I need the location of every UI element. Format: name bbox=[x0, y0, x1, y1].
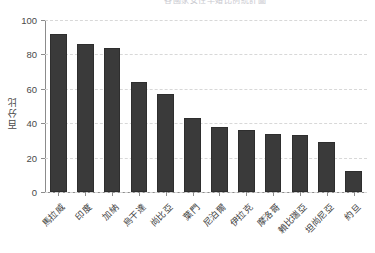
x-axis-category-label: 約旦 bbox=[341, 201, 363, 223]
x-label-slot: 加納 bbox=[99, 199, 126, 253]
x-label-slot: 馬拉威 bbox=[45, 199, 72, 253]
y-axis-title: 百分比 bbox=[6, 96, 20, 129]
x-axis-labels: 馬拉威印度加納烏干達尚比亞葉門尼泊爾伊拉克摩洛哥賴比瑞亞坦尚尼亞約旦 bbox=[45, 199, 367, 253]
x-axis-tick bbox=[139, 192, 140, 196]
x-label-slot: 伊拉克 bbox=[233, 199, 260, 253]
bar[interactable] bbox=[77, 44, 94, 192]
bar-slot bbox=[125, 20, 152, 192]
x-label-slot: 葉門 bbox=[179, 199, 206, 253]
x-axis-category-label: 印度 bbox=[73, 201, 95, 223]
x-axis-tick bbox=[327, 192, 328, 196]
bar-slot bbox=[99, 20, 126, 192]
x-axis-tick bbox=[166, 192, 167, 196]
bar-series bbox=[45, 20, 367, 192]
x-axis-tick bbox=[300, 192, 301, 196]
x-label-slot: 烏干達 bbox=[125, 199, 152, 253]
x-axis-tick bbox=[354, 192, 355, 196]
bar[interactable] bbox=[265, 134, 282, 192]
y-axis-tick-label: 40 bbox=[26, 118, 37, 129]
bar[interactable] bbox=[345, 171, 362, 192]
y-axis-tick-label: 100 bbox=[21, 15, 37, 26]
x-axis-tick bbox=[112, 192, 113, 196]
bar[interactable] bbox=[292, 135, 309, 192]
gridline bbox=[45, 192, 367, 193]
x-axis-tick bbox=[273, 192, 274, 196]
bar-slot bbox=[313, 20, 340, 192]
bar-slot bbox=[72, 20, 99, 192]
chart-title: 各國家女性早婚比例統計圖 bbox=[100, 0, 330, 4]
bar-slot bbox=[260, 20, 287, 192]
x-label-slot: 尼泊爾 bbox=[206, 199, 233, 253]
bar-slot bbox=[286, 20, 313, 192]
bar[interactable] bbox=[131, 82, 148, 192]
bar[interactable] bbox=[238, 130, 255, 192]
plot-area: 020406080100 bbox=[45, 20, 367, 193]
y-axis-tick-label: 60 bbox=[26, 83, 37, 94]
bar[interactable] bbox=[211, 127, 228, 192]
x-axis-tick bbox=[85, 192, 86, 196]
x-axis-tick bbox=[193, 192, 194, 196]
x-axis-category-label: 馬拉威 bbox=[39, 201, 67, 229]
bar[interactable] bbox=[104, 48, 121, 192]
bar[interactable] bbox=[318, 142, 335, 192]
x-label-slot: 坦尚尼亞 bbox=[313, 199, 340, 253]
bar-slot bbox=[233, 20, 260, 192]
x-label-slot: 約旦 bbox=[340, 199, 367, 253]
bar-slot bbox=[152, 20, 179, 192]
y-axis-tick-label: 20 bbox=[26, 152, 37, 163]
y-axis-tick-label: 0 bbox=[32, 187, 37, 198]
x-axis-tick bbox=[246, 192, 247, 196]
x-axis-category-label: 加納 bbox=[99, 201, 121, 223]
x-axis-tick bbox=[58, 192, 59, 196]
bar-slot bbox=[45, 20, 72, 192]
x-axis-tick bbox=[219, 192, 220, 196]
bar-slot bbox=[340, 20, 367, 192]
bar-slot bbox=[179, 20, 206, 192]
y-axis-tick bbox=[41, 192, 45, 193]
bar-chart: 各國家女性早婚比例統計圖 百分比 020406080100 馬拉威印度加納烏干達… bbox=[0, 0, 375, 253]
y-axis-tick-label: 80 bbox=[26, 49, 37, 60]
bar[interactable] bbox=[50, 34, 67, 192]
x-label-slot: 尚比亞 bbox=[152, 199, 179, 253]
bar[interactable] bbox=[157, 94, 174, 192]
bar-slot bbox=[206, 20, 233, 192]
x-label-slot: 印度 bbox=[72, 199, 99, 253]
bar[interactable] bbox=[184, 118, 201, 192]
